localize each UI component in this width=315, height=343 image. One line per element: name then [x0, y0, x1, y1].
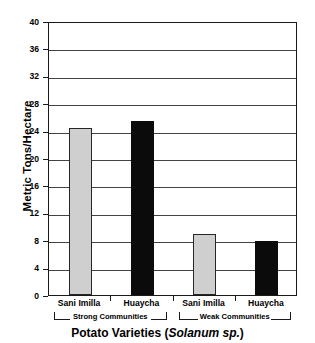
bar [69, 128, 92, 295]
y-tick-label: 0 [15, 292, 39, 301]
y-tick-mark [43, 186, 48, 187]
x-category-label: Huaycha [235, 299, 297, 308]
group-bracket-label: Strong Communities [54, 313, 167, 321]
y-tick-label: 24 [15, 127, 39, 136]
y-tick-mark [43, 269, 48, 270]
y-tick-label: 32 [15, 72, 39, 81]
x-axis-title-lead: Potato Varieties ( [71, 326, 168, 340]
gridline [49, 105, 296, 106]
bar [193, 234, 216, 295]
y-tick-mark [43, 22, 48, 23]
y-tick-label: 36 [15, 45, 39, 54]
y-tick-label: 16 [15, 182, 39, 191]
gridline [49, 78, 296, 79]
y-tick-mark [43, 49, 48, 50]
y-tick-label: 4 [15, 264, 39, 273]
x-category-label: Huaycha [110, 299, 172, 308]
gridline [49, 50, 296, 51]
y-tick-label: 28 [15, 100, 39, 109]
y-tick-mark [43, 104, 48, 105]
chart-figure: Metric Tons/Hectare 0481216202428323640 … [0, 0, 315, 343]
group-bracket-label: Weak Communities [179, 313, 292, 321]
bar [131, 121, 154, 295]
plot-area [48, 22, 297, 296]
x-axis-title-italic: Solanum sp. [169, 326, 240, 340]
x-category-label: Sani Imilla [173, 299, 235, 308]
y-tick-label: 12 [15, 209, 39, 218]
y-tick-mark [43, 241, 48, 242]
y-tick-mark [43, 214, 48, 215]
bar [255, 241, 278, 295]
x-category-label: Sani Imilla [48, 299, 110, 308]
y-tick-label: 40 [15, 18, 39, 27]
x-axis-title: Potato Varieties (Solanum sp.) [0, 326, 315, 340]
x-axis-title-trail: ) [240, 326, 244, 340]
y-tick-mark [43, 132, 48, 133]
y-tick-mark [43, 77, 48, 78]
y-tick-mark [43, 296, 48, 297]
y-tick-label: 8 [15, 237, 39, 246]
y-tick-mark [43, 159, 48, 160]
y-tick-label: 20 [15, 155, 39, 164]
